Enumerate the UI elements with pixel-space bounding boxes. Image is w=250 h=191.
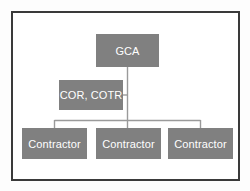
org-chart-diagram: GCA COR, COTR Contractor Contractor Cont… — [0, 0, 250, 191]
node-gca: GCA — [96, 34, 159, 67]
node-contractor-2: Contractor — [96, 128, 161, 159]
node-contractor-1: Contractor — [22, 128, 87, 159]
node-cor-cotr: COR, COTR — [59, 80, 123, 110]
node-contractor-3: Contractor — [168, 128, 233, 159]
